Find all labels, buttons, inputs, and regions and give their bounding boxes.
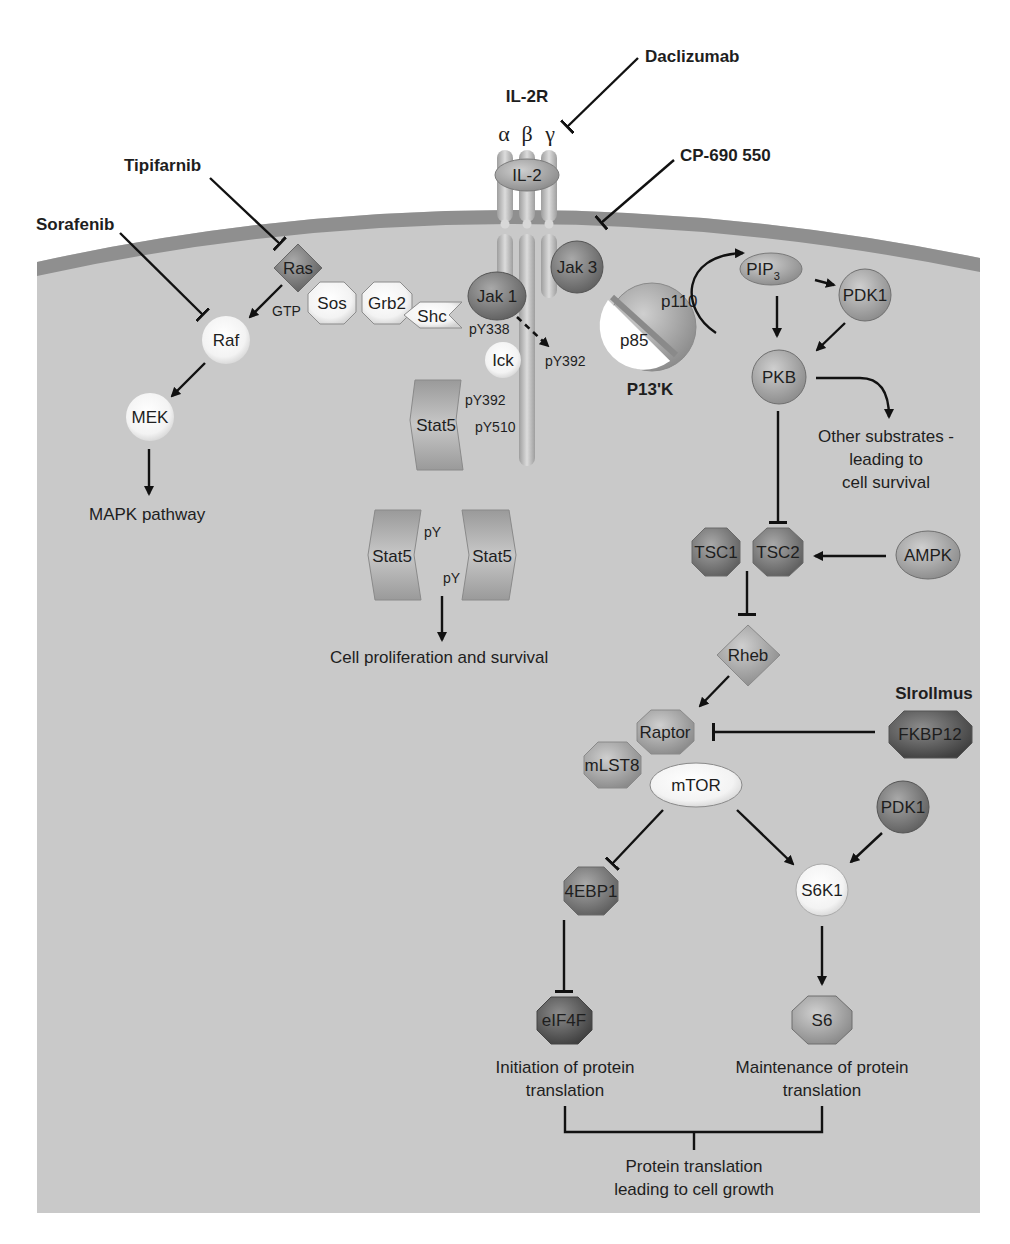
svg-text:Stat5: Stat5	[416, 416, 456, 435]
svg-text:Stat5: Stat5	[472, 547, 512, 566]
svg-text:S6: S6	[812, 1011, 833, 1030]
pkb-node: PKB	[752, 350, 806, 404]
4ebp1-node: 4EBP1	[564, 867, 618, 915]
mek-node: MEK	[126, 393, 174, 441]
svg-text:Stat5: Stat5	[372, 547, 412, 566]
svg-text:4EBP1: 4EBP1	[565, 882, 618, 901]
svg-text:TSC1: TSC1	[694, 543, 737, 562]
py-bottom-label: pY	[443, 570, 461, 586]
cell-proliferation-label: Cell proliferation and survival	[330, 648, 548, 667]
other-substrates-line1: Other substrates -	[818, 427, 954, 446]
svg-text:Ick: Ick	[492, 351, 514, 370]
il2-signaling-pathway-diagram: IL-2 IL-2R α β γ Daclizumab CP-690 550 T…	[0, 0, 1010, 1244]
sorafenib-label: Sorafenib	[36, 215, 114, 234]
mapk-pathway-label: MAPK pathway	[89, 505, 206, 524]
eif4f-node: eIF4F	[537, 997, 592, 1044]
svg-text:TSC2: TSC2	[756, 543, 799, 562]
svg-text:Sos: Sos	[317, 294, 346, 313]
svg-text:MEK: MEK	[132, 408, 170, 427]
raf-node: Raf	[202, 316, 250, 364]
svg-text:Jak 3: Jak 3	[557, 258, 598, 277]
py510-label: pY510	[475, 419, 516, 435]
svg-text:mLST8: mLST8	[585, 756, 640, 775]
svg-text:Ras: Ras	[283, 259, 313, 278]
svg-text:Rheb: Rheb	[728, 646, 769, 665]
s6k1-node: S6K1	[796, 864, 848, 916]
svg-text:PDK1: PDK1	[881, 798, 925, 817]
growth-line2: leading to cell growth	[614, 1180, 774, 1199]
tipifarnib-label: Tipifarnib	[124, 156, 201, 175]
initiation-line1: Initiation of protein	[496, 1058, 635, 1077]
pi3k-label: P13'K	[627, 380, 674, 399]
stat5-dimer-right: Stat5	[462, 510, 516, 600]
svg-text:Raf: Raf	[213, 331, 240, 350]
pip3-subscript: 3	[774, 270, 780, 282]
pip3-label: PIP	[746, 260, 773, 279]
svg-text:Shc: Shc	[417, 307, 447, 326]
svg-text:AMPK: AMPK	[904, 546, 953, 565]
svg-text:S6K1: S6K1	[801, 881, 843, 900]
py-top-label: pY	[424, 524, 442, 540]
daclizumab-label: Daclizumab	[645, 47, 739, 66]
gtp-label: GTP	[272, 303, 301, 319]
tsc1-node: TSC1	[692, 528, 740, 576]
beta-label: β	[521, 121, 532, 146]
svg-text:mTOR: mTOR	[671, 776, 721, 795]
svg-text:PKB: PKB	[762, 368, 796, 387]
jak3-node: Jak 3	[551, 241, 603, 293]
cp690550-label: CP-690 550	[680, 146, 771, 165]
mtor-node: mTOR	[650, 763, 742, 807]
fkbp12-node: FKBP12	[889, 711, 972, 758]
pi3k-node: p110 p85	[600, 283, 698, 371]
p85-label: p85	[620, 331, 648, 350]
il2r-title: IL-2R	[506, 87, 549, 106]
pdk1-top-node: PDK1	[839, 269, 891, 321]
stat5-monomer: Stat5	[410, 380, 463, 470]
stat5-dimer-left: Stat5	[368, 510, 421, 600]
ampk-node: AMPK	[896, 531, 960, 579]
s6-node: S6	[792, 996, 852, 1044]
maintenance-line1: Maintenance of protein	[736, 1058, 909, 1077]
daclizumab-inhibition	[567, 58, 638, 127]
py392-jak-label: pY392	[545, 353, 586, 369]
tsc2-node: TSC2	[753, 528, 803, 576]
svg-text:Jak 1: Jak 1	[477, 287, 518, 306]
pip3-node: PIP3	[740, 253, 802, 285]
other-substrates-line2: leading to	[849, 450, 923, 469]
py392-stat-label: pY392	[465, 392, 506, 408]
svg-text:Raptor: Raptor	[639, 723, 690, 742]
svg-text:FKBP12: FKBP12	[898, 725, 961, 744]
initiation-line2: translation	[526, 1081, 604, 1100]
mlst8-node: mLST8	[584, 742, 641, 788]
growth-line1: Protein translation	[625, 1157, 762, 1176]
alpha-label: α	[498, 121, 510, 146]
raptor-node: Raptor	[637, 710, 694, 754]
sos-node: Sos	[308, 282, 356, 324]
py338-label: pY338	[469, 321, 510, 337]
svg-text:eIF4F: eIF4F	[542, 1011, 586, 1030]
il2-label: IL-2	[512, 166, 541, 185]
svg-text:PDK1: PDK1	[843, 286, 887, 305]
svg-text:Grb2: Grb2	[368, 294, 406, 313]
pdk1-bottom-node: PDK1	[877, 781, 929, 833]
other-substrates-line3: cell survival	[842, 473, 930, 492]
maintenance-line2: translation	[783, 1081, 861, 1100]
lck-node: Ick	[485, 342, 521, 378]
grb2-node: Grb2	[362, 282, 412, 324]
gamma-label: γ	[544, 121, 555, 146]
sirolimus-label: Slrollmus	[895, 684, 972, 703]
jak1-node: Jak 1	[468, 272, 526, 320]
